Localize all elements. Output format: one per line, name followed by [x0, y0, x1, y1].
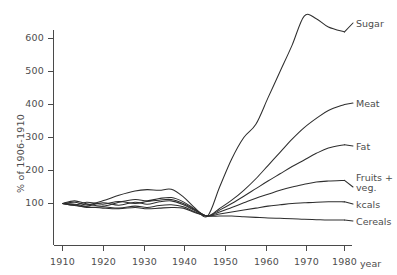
series-label-cereals: Cereals	[356, 217, 391, 228]
x-tick-label-1980: 1980	[324, 256, 365, 267]
series-label-meat: Meat	[356, 99, 380, 110]
leader-line-kcals	[345, 202, 354, 204]
data-series-group	[63, 14, 345, 220]
series-line-sugar	[63, 14, 345, 217]
y-tick-marks	[48, 39, 54, 204]
label-leader-lines	[345, 23, 354, 221]
y-tick-label-500: 500	[14, 65, 44, 76]
leader-line-cereals	[345, 220, 354, 221]
series-label-sugar: Sugar	[356, 19, 384, 30]
x-axis-title: year	[360, 258, 381, 269]
series-label-fat: Fat	[356, 142, 370, 153]
series-label-fruits-veg-line2: veg.	[356, 183, 377, 194]
series-label-kcals: kcals	[356, 200, 380, 211]
x-tick-label-1930: 1930	[124, 256, 165, 267]
series-line-meat	[63, 105, 345, 217]
chart-plot-area	[0, 0, 397, 275]
leader-line-fruits-veg	[345, 180, 354, 187]
y-axis-title: % of 1906-1910	[15, 106, 26, 202]
axes-group	[48, 30, 352, 251]
x-tick-label-1960: 1960	[246, 256, 287, 267]
leader-line-meat	[345, 103, 354, 105]
leader-line-sugar	[345, 23, 354, 32]
x-tick-label-1910: 1910	[42, 256, 83, 267]
series-line-fruits-veg	[63, 180, 345, 216]
chart-figure: 600 500 400 300 200 100 1910 1920 1930 1…	[0, 0, 397, 275]
x-tick-label-1920: 1920	[83, 256, 124, 267]
x-tick-marks	[63, 246, 345, 252]
x-tick-label-1940: 1940	[164, 256, 205, 267]
leader-line-fat	[345, 145, 354, 146]
x-tick-label-1970: 1970	[286, 256, 327, 267]
x-tick-label-1950: 1950	[205, 256, 246, 267]
y-tick-label-600: 600	[14, 32, 44, 43]
series-line-fat	[63, 145, 345, 216]
